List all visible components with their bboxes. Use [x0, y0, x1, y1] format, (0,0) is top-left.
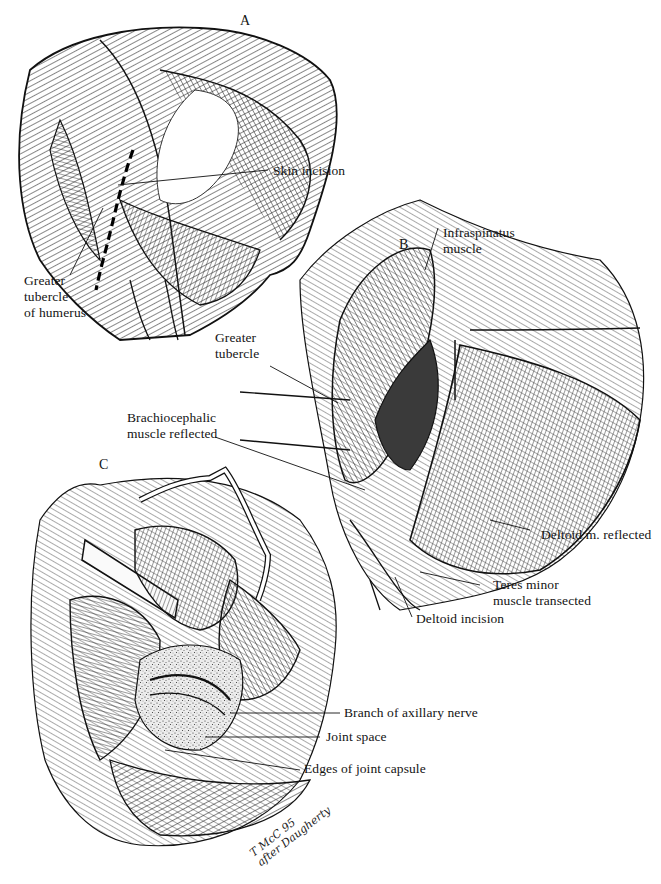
- label-infraspinatus-muscle: Infraspinatus muscle: [443, 225, 515, 257]
- label-line: tubercle: [215, 346, 259, 362]
- label-line: muscle: [443, 241, 515, 257]
- label-deltoid-incision: Deltoid incision: [416, 611, 504, 627]
- label-greater-tubercle: Greater tubercle: [215, 330, 259, 362]
- panel-a-letter: A: [240, 13, 250, 29]
- label-branch-axillary-nerve: Branch of axillary nerve: [344, 705, 478, 721]
- label-brachiocephalic-muscle-reflected: Brachiocephalic muscle reflected: [127, 410, 217, 442]
- panel-c-letter: C: [99, 457, 108, 473]
- label-line: Teres minor: [493, 577, 591, 593]
- label-line: Infraspinatus: [443, 225, 515, 241]
- label-line: muscle transected: [493, 593, 591, 609]
- label-teres-minor-transected: Teres minor muscle transected: [493, 577, 591, 609]
- label-line: of humerus: [24, 305, 86, 321]
- panel-c-drawing: [31, 470, 340, 846]
- label-line: muscle reflected: [127, 426, 217, 442]
- label-greater-tubercle-humerus: Greater tubercle of humerus: [24, 273, 86, 321]
- label-line: Greater: [215, 330, 259, 346]
- panel-b-letter: B: [399, 237, 408, 253]
- label-joint-space: Joint space: [326, 729, 387, 745]
- label-deltoid-reflected: Deltoid m. reflected: [541, 527, 651, 543]
- label-line: tubercle: [24, 289, 86, 305]
- label-line: Brachiocephalic: [127, 410, 217, 426]
- label-edges-joint-capsule: Edges of joint capsule: [304, 761, 426, 777]
- surgical-illustration: [0, 0, 661, 884]
- label-skin-incision: Skin incision: [273, 163, 345, 179]
- label-line: Greater: [24, 273, 86, 289]
